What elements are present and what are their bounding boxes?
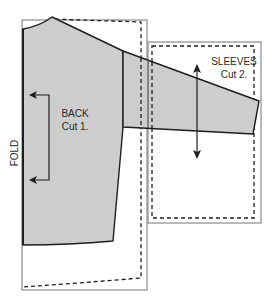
fold-label: FOLD <box>9 140 20 167</box>
back-label-line2: Cut 1. <box>62 121 89 132</box>
back-label-line1: BACK <box>61 108 89 119</box>
sleeves-label-line2: Cut 2. <box>221 69 248 80</box>
pattern-layout: BACK Cut 1. SLEEVES Cut 2. FOLD <box>0 0 277 306</box>
sleeves-label-line1: SLEEVES <box>211 56 257 67</box>
